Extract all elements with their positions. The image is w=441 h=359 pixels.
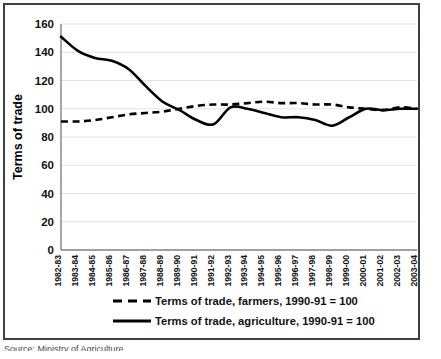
- line-chart: 160140120100806040200 1982-831983-841984…: [5, 5, 422, 342]
- x-axis-tick-label: 1993-94: [239, 255, 249, 287]
- y-axis-tick-label: 20: [41, 216, 54, 228]
- x-axis-tick-label: 1986-87: [121, 255, 131, 287]
- x-axis-tick-label: 1982-83: [53, 255, 63, 287]
- y-axis-tick-label: 80: [41, 131, 54, 143]
- x-axis-tick-label: 1995-96: [273, 255, 283, 287]
- source-note: Source: Ministry of Agriculture: [4, 344, 434, 358]
- x-axis-tick-label: 1983-84: [70, 255, 80, 287]
- x-axis-tick-label: 1992-93: [223, 255, 233, 287]
- x-axis-tick-label: 1989-90: [172, 255, 182, 287]
- legend-label: Terms of trade, farmers, 1990-91 = 100: [155, 295, 358, 307]
- y-axis-tick-label: 160: [35, 18, 54, 30]
- x-axis-tick-label: 1991-92: [206, 255, 216, 287]
- y-axis-tick-label: 40: [41, 188, 54, 200]
- y-axis-tick-label: 100: [35, 103, 54, 115]
- x-axis-tick-label: 1984-85: [87, 255, 97, 287]
- y-axis-tick-label: 140: [35, 46, 54, 58]
- gridlines-group: [61, 24, 417, 222]
- x-axis-tick-label: 2002-03: [392, 255, 402, 287]
- x-axis-tick-label: 1994-95: [256, 255, 266, 287]
- y-axis-title: Terms of trade: [11, 94, 25, 180]
- x-axis-tick-label: 1998-99: [324, 255, 334, 287]
- y-axis-tick-labels: 160140120100806040200: [35, 18, 54, 256]
- x-axis-tick-label: 1997-98: [307, 255, 317, 287]
- legend-label: Terms of trade, agriculture, 1990-91 = 1…: [155, 315, 375, 327]
- x-axis-tick-label: 1985-86: [104, 255, 114, 287]
- x-axis-tick-label: 2003-04: [409, 255, 419, 287]
- x-axis-tick-label: 1990-91: [189, 255, 199, 287]
- x-axis-tick-label: 1987-88: [138, 255, 148, 287]
- x-axis-tick-label: 2001-02: [375, 255, 385, 287]
- x-axis-tick-labels: 1982-831983-841984-851985-861986-871987-…: [53, 255, 419, 287]
- y-axis-tick-label: 0: [48, 244, 54, 256]
- x-axis-tick-label: 1988-89: [155, 255, 165, 287]
- y-axis-tick-label: 60: [41, 159, 54, 171]
- series-group: [61, 37, 417, 126]
- series-line-1: [61, 102, 417, 122]
- x-axis-tick-label: 1996-97: [290, 255, 300, 287]
- x-axis-tick-label: 1999-00: [341, 255, 351, 287]
- x-axis-tick-label: 2000-01: [358, 255, 368, 287]
- chart-legend: Terms of trade, farmers, 1990-91 = 100Te…: [113, 295, 375, 327]
- series-line-2: [61, 37, 417, 126]
- chart-plot-wrapper: 160140120100806040200 1982-831983-841984…: [5, 5, 418, 338]
- chart-frame: 160140120100806040200 1982-831983-841984…: [3, 3, 420, 340]
- y-axis-tick-label: 120: [35, 75, 54, 87]
